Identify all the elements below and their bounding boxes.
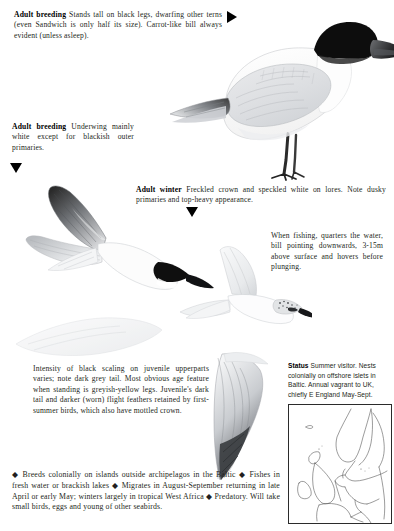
caption-juvenile: Intensity of black scaling on juvenile u… bbox=[33, 364, 209, 416]
caption-adult-breeding-underwing: Adult breeding Underwing mainly white ex… bbox=[12, 122, 134, 153]
pointer-down-triangle-icon bbox=[186, 207, 198, 217]
facts-text: ◆ Breeds colonially on islands outside a… bbox=[12, 470, 280, 511]
status-panel: Status Summer visitor. Nests colonially … bbox=[288, 361, 392, 399]
range-map bbox=[288, 404, 392, 524]
caption-fishing-behaviour: When fishing, quarters the water, bill p… bbox=[271, 231, 383, 273]
pointer-down-triangle-icon bbox=[10, 163, 22, 173]
caption-lead: Adult winter bbox=[136, 185, 182, 194]
caption-adult-winter: Adult winter Freckled crown and speckled… bbox=[136, 185, 386, 206]
upperwing-detail-illustration bbox=[6, 296, 186, 374]
caption-body: When fishing, quarters the water, bill p… bbox=[271, 231, 383, 271]
caption-body: Intensity of black scaling on juvenile u… bbox=[33, 364, 209, 415]
caption-lead: Adult breeding bbox=[14, 10, 66, 19]
facts-bullet-block: ◆ Breeds colonially on islands outside a… bbox=[12, 470, 280, 513]
field-guide-page: Adult breeding Stands tall on black legs… bbox=[0, 0, 394, 531]
pointer-right-triangle-icon bbox=[227, 11, 237, 23]
caption-lead: Adult breeding bbox=[12, 122, 66, 131]
status-lead: Status bbox=[288, 362, 309, 369]
status-text: Status Summer visitor. Nests colonially … bbox=[288, 361, 392, 399]
caption-adult-breeding-standing: Adult breeding Stands tall on black legs… bbox=[14, 10, 222, 41]
